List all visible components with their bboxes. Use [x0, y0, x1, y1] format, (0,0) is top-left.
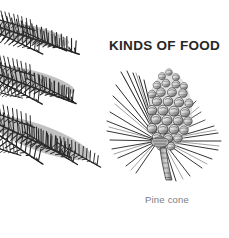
figure-caption: Pine cone	[145, 194, 189, 206]
page-canvas: KINDS OF FOOD Pine cone	[0, 0, 229, 238]
page-title: KINDS OF FOOD	[109, 38, 220, 54]
text-layer: KINDS OF FOOD Pine cone	[0, 0, 229, 238]
